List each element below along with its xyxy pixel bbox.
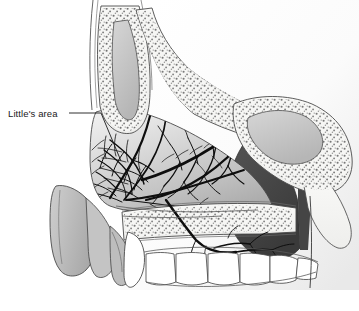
littles-area-label: Little's area	[8, 108, 58, 119]
tooth	[146, 253, 176, 286]
tooth	[240, 253, 270, 285]
tooth	[270, 255, 298, 283]
tooth	[176, 253, 208, 286]
upper-teeth-row	[146, 253, 318, 286]
tooth	[208, 253, 240, 286]
nasal-septum-illustration: Little's area	[0, 0, 359, 311]
tooth	[296, 258, 318, 280]
anatomy-artwork	[0, 0, 359, 311]
